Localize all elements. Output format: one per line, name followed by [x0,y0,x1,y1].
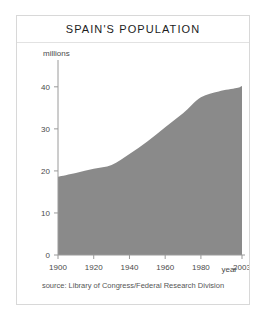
svg-text:1900: 1900 [49,263,67,272]
svg-text:1940: 1940 [121,263,139,272]
svg-text:0: 0 [46,251,51,260]
population-area-chart: 010203040190019201940196019802003 [17,43,249,306]
page-title: SPAIN'S POPULATION [66,23,201,35]
figure-frame: SPAIN'S POPULATION millions 010203040190… [16,15,250,305]
svg-text:1980: 1980 [192,263,210,272]
svg-text:20: 20 [41,167,50,176]
svg-text:1920: 1920 [85,263,103,272]
svg-text:40: 40 [41,83,50,92]
svg-text:1960: 1960 [156,263,174,272]
x-axis-label: year [221,265,237,274]
source-caption: source: Library of Congress/Federal Rese… [17,281,249,290]
chart-title-box: SPAIN'S POPULATION [17,16,249,43]
plot-area-wrapper: millions 0102030401900192019401960198020… [17,43,249,306]
svg-text:30: 30 [41,125,50,134]
svg-text:10: 10 [41,209,50,218]
